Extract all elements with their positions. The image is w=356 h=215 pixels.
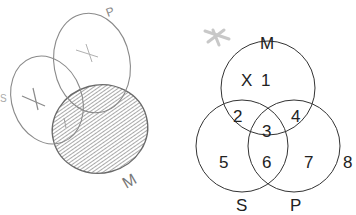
region-8: 8 xyxy=(343,153,352,172)
region-4: 4 xyxy=(291,107,300,126)
region-5: 5 xyxy=(219,153,228,172)
sketch-circle-m xyxy=(42,74,158,184)
set-label-m: M xyxy=(260,34,274,53)
x-mark: X xyxy=(241,71,252,90)
region-2: 2 xyxy=(233,107,242,126)
sketch-x-mark-p xyxy=(76,44,98,62)
hand-drawn-venn-sketch: S P M xyxy=(0,0,180,215)
set-label-p: P xyxy=(290,196,301,215)
venn-diagram: M S P X 1 2 3 4 5 6 7 8 xyxy=(180,0,356,215)
region-1: 1 xyxy=(261,71,270,90)
smudge-mark xyxy=(205,30,229,45)
set-label-s: S xyxy=(236,196,247,215)
sketch-x-mark-s xyxy=(22,88,45,110)
sketch-label-m: M xyxy=(119,170,139,191)
region-6: 6 xyxy=(262,153,271,172)
sketch-label-p: P xyxy=(104,4,116,20)
sketch-label-s: S xyxy=(0,93,7,104)
region-3: 3 xyxy=(262,122,271,141)
region-7: 7 xyxy=(304,153,313,172)
